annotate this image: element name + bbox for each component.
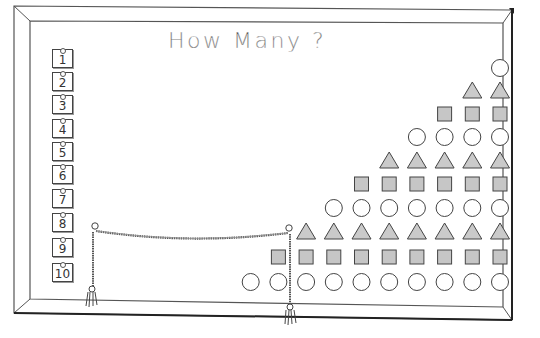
number-card-label: 4 [59, 123, 67, 137]
square-icon [355, 177, 369, 191]
number-card-label: 10 [55, 267, 70, 281]
circle-icon [436, 129, 453, 146]
circle-icon [436, 200, 453, 217]
square-icon [410, 250, 424, 264]
shape-row-6 [355, 177, 508, 191]
triangle-icon [463, 152, 482, 168]
number-card-5: 5 [52, 142, 73, 161]
triangle-icon [407, 223, 426, 239]
circle-icon [408, 129, 425, 146]
number-card-8: 8 [52, 213, 73, 232]
shape-row-3 [438, 107, 507, 121]
square-icon [493, 177, 507, 191]
square-icon [438, 107, 452, 121]
rope-knot-right [286, 225, 292, 231]
circle-icon [492, 200, 509, 217]
circle-icon [381, 200, 398, 217]
triangle-icon [435, 223, 454, 239]
shape-row-4 [408, 129, 508, 146]
number-card-label: 9 [59, 242, 67, 256]
shape-row-1 [492, 60, 509, 77]
shape-rows [242, 60, 509, 291]
tassel-icon [285, 304, 296, 325]
number-card-3: 3 [52, 95, 73, 114]
square-icon [438, 177, 452, 191]
triangle-icon [407, 152, 426, 168]
number-card-6: 6 [52, 165, 73, 184]
number-card-1: 1 [52, 49, 73, 68]
circle-icon [492, 60, 509, 77]
circle-icon [353, 274, 370, 291]
circle-icon [464, 200, 481, 217]
circle-icon [408, 274, 425, 291]
square-icon [355, 250, 369, 264]
square-icon [465, 107, 479, 121]
circle-icon [381, 274, 398, 291]
shape-row-8 [297, 223, 510, 239]
tassel-icon [86, 286, 97, 307]
square-icon [271, 250, 285, 264]
circle-icon [298, 274, 315, 291]
circle-icon [325, 200, 342, 217]
triangle-icon [297, 223, 316, 239]
triangle-icon [352, 223, 371, 239]
circle-icon [464, 274, 481, 291]
triangle-icon [491, 152, 510, 168]
circle-icon [492, 129, 509, 146]
shape-row-10 [242, 274, 508, 291]
shape-row-7 [325, 200, 508, 217]
number-card-label: 7 [59, 193, 67, 207]
square-icon [465, 250, 479, 264]
number-card-label: 1 [59, 53, 67, 67]
triangle-icon [435, 152, 454, 168]
page-title: How Many ? [168, 28, 326, 53]
square-icon [465, 177, 479, 191]
triangle-icon [491, 223, 510, 239]
square-icon [410, 177, 424, 191]
square-icon [493, 107, 507, 121]
number-card-label: 2 [59, 76, 67, 90]
square-icon [382, 177, 396, 191]
circle-icon [464, 129, 481, 146]
triangle-icon [491, 82, 510, 98]
circle-icon [408, 200, 425, 217]
circle-icon [242, 274, 259, 291]
number-card-9: 9 [52, 238, 73, 257]
number-card-4: 4 [52, 119, 73, 138]
triangle-icon [463, 82, 482, 98]
square-icon [438, 250, 452, 264]
number-card-label: 6 [59, 169, 67, 183]
shape-row-9 [271, 250, 507, 264]
number-card-label: 3 [59, 99, 67, 113]
circle-icon [270, 274, 287, 291]
number-card-7: 7 [52, 189, 73, 208]
how-many-chart-board: How Many ? 12345678910 [0, 0, 540, 338]
square-icon [299, 250, 313, 264]
number-card-label: 8 [59, 217, 67, 231]
circle-icon [436, 274, 453, 291]
triangle-icon [324, 223, 343, 239]
rope-pointer[interactable] [86, 223, 296, 325]
triangle-icon [380, 152, 399, 168]
triangle-icon [380, 223, 399, 239]
circle-icon [492, 274, 509, 291]
square-icon [382, 250, 396, 264]
circle-icon [353, 200, 370, 217]
rope-knot-left [92, 223, 98, 229]
number-card-2: 2 [52, 72, 73, 91]
shape-row-5 [380, 152, 510, 168]
square-icon [493, 250, 507, 264]
triangle-icon [463, 223, 482, 239]
number-card-label: 5 [59, 146, 67, 160]
circle-icon [325, 274, 342, 291]
number-card-10: 10 [52, 263, 73, 282]
square-icon [327, 250, 341, 264]
